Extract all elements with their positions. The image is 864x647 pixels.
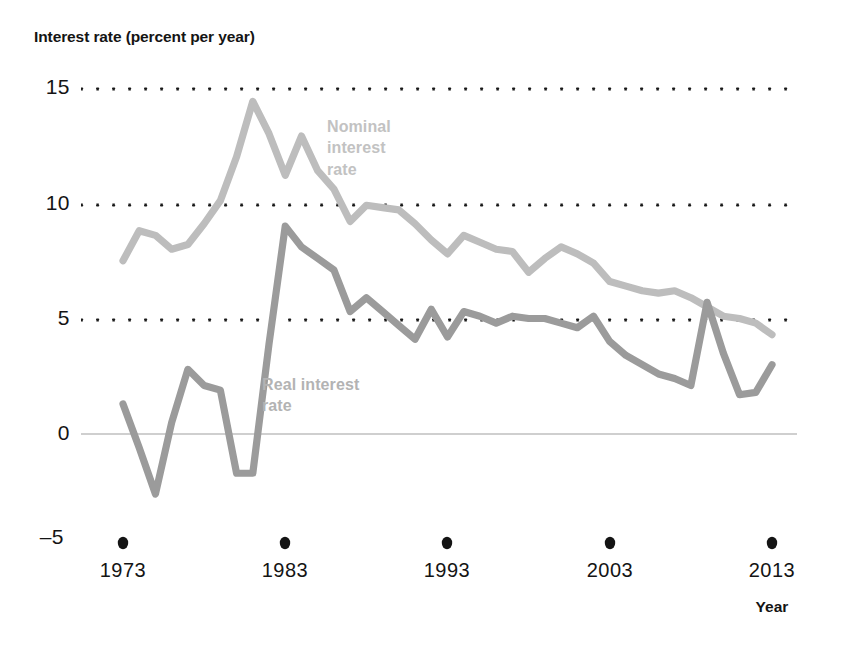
y-tick-label-0: 0	[24, 421, 70, 445]
x-axis-tick-dots	[118, 537, 777, 549]
x-tick-dot-1973	[118, 537, 128, 549]
annotation-nominal-interest-rate: Nominal interest rate	[327, 116, 391, 180]
x-tick-label-2013: 2013	[722, 559, 822, 582]
x-tick-dot-2013	[767, 537, 777, 549]
gridline-15	[81, 88, 797, 91]
gridline-10	[81, 204, 797, 207]
x-tick-dot-2003	[605, 537, 615, 549]
x-tick-dot-1993	[442, 537, 452, 549]
annotation-real-interest-rate: Real interest rate	[262, 374, 359, 417]
y-tick-label-minus-5: –5	[18, 525, 64, 549]
y-tick-label-10: 10	[24, 191, 70, 215]
interest-rate-chart-figure: Interest rate (percent per year) 15 10	[0, 0, 864, 647]
x-tick-dot-1983	[280, 537, 290, 549]
x-tick-label-2003: 2003	[560, 559, 660, 582]
x-tick-label-1983: 1983	[235, 559, 335, 582]
series-line-real-interest-rate	[123, 226, 772, 494]
x-tick-label-1993: 1993	[397, 559, 497, 582]
y-tick-label-5: 5	[24, 306, 70, 330]
x-axis-title: Year	[722, 598, 822, 616]
y-tick-label-15: 15	[24, 75, 70, 99]
x-tick-label-1973: 1973	[73, 559, 173, 582]
series-line-nominal-interest-rate	[123, 101, 772, 334]
chart-plot-area	[0, 0, 864, 647]
